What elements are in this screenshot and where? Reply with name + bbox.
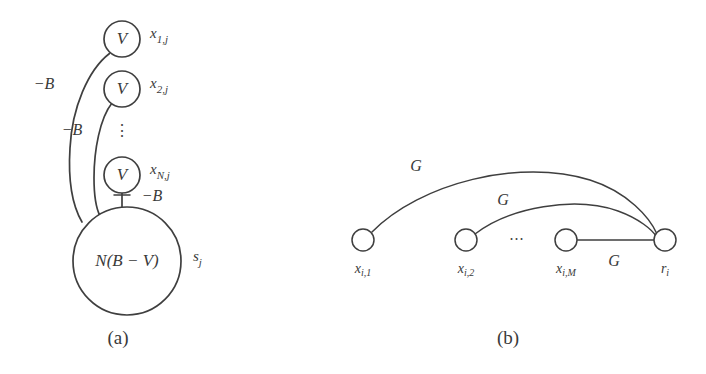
panel-a-vertical-ellipsis: ⋮ — [114, 122, 130, 139]
node-xiM-label-sub: i,M — [562, 267, 576, 278]
node-xi2-circle[interactable] — [455, 229, 477, 251]
panel-b: xi,1 xi,2 ⋯ xi,M — [352, 157, 676, 350]
panel-b-horizontal-ellipsis: ⋯ — [509, 230, 524, 246]
node-xi1-label: xi,1 — [354, 261, 372, 278]
node-xNj-outer-label: xN,j — [149, 161, 170, 180]
node-ri-label: ri — [661, 261, 669, 278]
node-xiM-circle[interactable] — [555, 229, 577, 251]
edge-label-xi1-ri: G — [410, 157, 422, 174]
edge-xi1-ri — [372, 172, 657, 234]
node-xi1[interactable]: xi,1 — [352, 229, 374, 278]
node-xi2[interactable]: xi,2 — [455, 229, 477, 278]
node-x2j-outer-label: x2,j — [149, 75, 168, 94]
edge-label-x1j-sj: −B — [34, 75, 55, 92]
node-xi2-label: xi,2 — [457, 261, 475, 278]
node-xi2-label-sub: i,2 — [464, 267, 474, 278]
node-ri[interactable]: ri — [654, 229, 676, 278]
edge-label-xi2-ri: G — [497, 191, 509, 208]
node-x2j-outer-label-sub: 2,j — [157, 83, 168, 95]
node-ri-label-sub: i — [666, 267, 669, 278]
figure-canvas: V x1,j V x2,j ⋮ V xN,j — [0, 0, 706, 374]
node-sj-inner-label: N(B − V) — [94, 251, 159, 270]
node-xi1-circle[interactable] — [352, 229, 374, 251]
edge-x2j-sj — [94, 103, 112, 216]
node-x2j[interactable]: V x2,j — [104, 71, 168, 107]
node-xiM-label: xi,M — [555, 261, 576, 278]
node-xi1-label-sub: i,1 — [361, 267, 371, 278]
panel-b-caption: (b) — [497, 327, 519, 349]
node-x1j[interactable]: V x1,j — [104, 21, 168, 57]
edge-x1j-sj — [70, 54, 110, 223]
edge-label-xNj-sj: −B — [142, 187, 163, 204]
edge-label-x2j-sj: −B — [62, 121, 83, 138]
node-x1j-outer-label: x1,j — [149, 25, 168, 44]
node-ri-circle[interactable] — [654, 229, 676, 251]
node-xiM[interactable]: xi,M — [555, 229, 577, 278]
panel-a: V x1,j V x2,j ⋮ V xN,j — [34, 21, 202, 349]
node-sj-outer-label: sj — [193, 248, 202, 267]
node-x1j-outer-label-sub: 1,j — [157, 33, 168, 45]
figure-svg: V x1,j V x2,j ⋮ V xN,j — [0, 0, 706, 374]
node-sj[interactable]: N(B − V) sj — [73, 207, 202, 315]
node-xNj-outer-label-sub: N,j — [156, 169, 170, 181]
panel-a-caption: (a) — [107, 327, 128, 349]
edge-label-xiM-ri: G — [608, 252, 620, 269]
